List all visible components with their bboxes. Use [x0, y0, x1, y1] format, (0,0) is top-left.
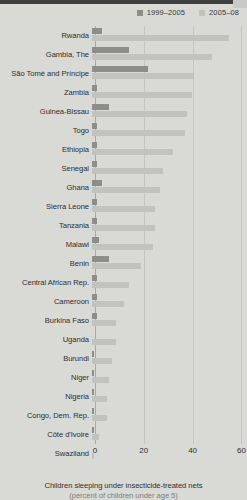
category-label: Tanzania [0, 221, 92, 230]
bar-period2[interactable] [92, 415, 107, 421]
bar-period1[interactable] [92, 408, 94, 414]
row-bars [92, 235, 247, 254]
chart-row[interactable]: Cameroon [0, 292, 247, 311]
bar-period2[interactable] [92, 187, 160, 193]
bar-period2[interactable] [92, 244, 153, 250]
chart-row[interactable]: Togo [0, 121, 247, 140]
bar-period1[interactable] [92, 294, 97, 300]
bar-period2[interactable] [92, 168, 163, 174]
chart-row[interactable]: Burundi [0, 349, 247, 368]
bar-period1[interactable] [92, 104, 109, 110]
category-label: Uganda [0, 335, 92, 344]
chart-row[interactable]: Senegal [0, 159, 247, 178]
chart-row[interactable]: Burkina Faso [0, 311, 247, 330]
chart-row[interactable]: Côte d'Ivoire [0, 425, 247, 444]
chart-row[interactable]: Sierra Leone [0, 197, 247, 216]
row-bars [92, 26, 247, 45]
bar-period1[interactable] [92, 180, 102, 186]
chart-row[interactable]: Rwanda [0, 26, 247, 45]
legend-item-period2[interactable]: 2005–08 [199, 8, 239, 17]
bar-period1[interactable] [92, 142, 97, 148]
bar-period1[interactable] [92, 123, 97, 129]
chart-row[interactable]: Guinea-Bissau [0, 102, 247, 121]
bar-period1[interactable] [92, 85, 97, 91]
chart-row[interactable]: Gambia, The [0, 45, 247, 64]
bar-period1[interactable] [92, 389, 94, 395]
bar-period2[interactable] [92, 358, 112, 364]
bar-period2[interactable] [92, 92, 192, 98]
category-label: Swaziland [0, 449, 92, 458]
bar-period1[interactable] [92, 256, 109, 262]
chart-legend: 1999–2005 2005–08 [0, 8, 247, 17]
bar-period1[interactable] [92, 313, 97, 319]
bar-period1[interactable] [92, 66, 148, 72]
category-label: Côte d'Ivoire [0, 430, 92, 439]
row-bars [92, 368, 247, 387]
category-label: Burkina Faso [0, 316, 92, 325]
bar-period2[interactable] [92, 149, 173, 155]
row-bars [92, 121, 247, 140]
bar-period2[interactable] [92, 73, 194, 79]
bar-period2[interactable] [92, 225, 155, 231]
bar-period2[interactable] [92, 377, 109, 383]
chart-row[interactable]: Uganda [0, 330, 247, 349]
caption-line-2: (percent of children under age 5) [0, 491, 247, 500]
category-label: Cameroon [0, 297, 92, 306]
x-tick-60: 60 [237, 446, 246, 455]
bar-period2[interactable] [92, 35, 229, 41]
bar-period1[interactable] [92, 47, 129, 53]
x-tick-0: 0 [93, 446, 97, 455]
category-label: Nigeria [0, 392, 92, 401]
bar-period1[interactable] [92, 351, 94, 357]
bar-period1[interactable] [92, 28, 102, 34]
category-label: Central African Rep. [0, 278, 92, 287]
bar-period2[interactable] [92, 263, 141, 269]
bar-period1[interactable] [92, 218, 97, 224]
legend-swatch-icon [137, 10, 143, 16]
bar-period1[interactable] [92, 199, 97, 205]
chart-row[interactable]: Ethiopia [0, 140, 247, 159]
chart-row[interactable]: Niger [0, 368, 247, 387]
bar-period2[interactable] [92, 54, 212, 60]
bar-period2[interactable] [92, 339, 116, 345]
chart-row[interactable]: Nigeria [0, 387, 247, 406]
bar-period2[interactable] [92, 282, 129, 288]
bar-period1[interactable] [92, 275, 97, 281]
legend-swatch-icon [199, 10, 205, 16]
chart-row[interactable]: Congo, Dem. Rep. [0, 406, 247, 425]
bar-period1[interactable] [92, 237, 99, 243]
bar-period2[interactable] [92, 320, 116, 326]
x-axis: 0204060 [95, 446, 247, 458]
chart-row[interactable]: Tanzania [0, 216, 247, 235]
category-label: Zambia [0, 88, 92, 97]
row-bars [92, 387, 247, 406]
chart-row[interactable]: São Tomé and Príncipe [0, 64, 247, 83]
legend-item-period1[interactable]: 1999–2005 [137, 8, 185, 17]
row-bars [92, 178, 247, 197]
row-bars [92, 102, 247, 121]
bar-period2[interactable] [92, 396, 107, 402]
bar-period1[interactable] [92, 161, 97, 167]
bar-period2[interactable] [92, 301, 124, 307]
bar-period1[interactable] [92, 427, 94, 433]
category-label: Congo, Dem. Rep. [0, 411, 92, 420]
bar-period2[interactable] [92, 111, 187, 117]
x-tick-20: 20 [139, 446, 148, 455]
chart-row[interactable]: Zambia [0, 83, 247, 102]
bar-period2[interactable] [92, 434, 99, 440]
row-bars [92, 45, 247, 64]
row-bars [92, 311, 247, 330]
chart-row[interactable]: Malawi [0, 235, 247, 254]
row-bars [92, 349, 247, 368]
chart-row[interactable]: Ghana [0, 178, 247, 197]
row-bars [92, 64, 247, 83]
category-label: Gambia, The [0, 50, 92, 59]
bar-period2[interactable] [92, 206, 155, 212]
bar-period2[interactable] [92, 130, 185, 136]
chart-row[interactable]: Central African Rep. [0, 273, 247, 292]
row-bars [92, 254, 247, 273]
category-label: Senegal [0, 164, 92, 173]
chart-row[interactable]: Benin [0, 254, 247, 273]
bar-period1[interactable] [92, 370, 94, 376]
